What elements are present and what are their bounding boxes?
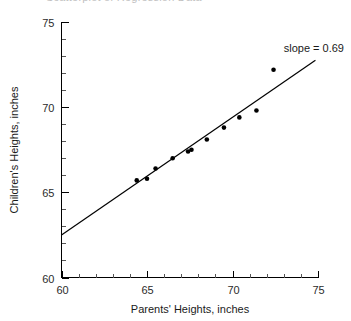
data-point [145, 176, 150, 181]
x-axis-major-ticks [63, 271, 319, 278]
y-axis-minor-ticks [62, 40, 66, 261]
chart-canvas: 60657075 60657075 Children's Heights, in… [0, 0, 351, 321]
data-point [237, 115, 242, 120]
slope-annotation: slope = 0.69 [284, 42, 344, 54]
data-point-group [134, 67, 275, 182]
data-point [222, 125, 227, 130]
y-tick-label: 65 [42, 187, 54, 199]
y-axis-title: Children's Heights, inches [8, 86, 20, 213]
y-tick-label: 60 [42, 273, 54, 285]
x-tick-label: 70 [227, 284, 239, 296]
x-axis-title: Parents' Heights, inches [131, 303, 250, 315]
x-axis-tick-labels: 60657075 [56, 284, 324, 296]
y-tick-label: 70 [42, 102, 54, 114]
data-point [134, 178, 139, 183]
data-point [153, 166, 158, 171]
y-tick-label: 75 [42, 17, 54, 29]
data-point [205, 137, 210, 142]
x-tick-label: 65 [141, 284, 153, 296]
data-point [170, 156, 175, 161]
data-point [189, 147, 194, 152]
y-axis-tick-labels: 60657075 [42, 17, 54, 285]
data-point [271, 67, 276, 72]
regression-line [62, 60, 316, 235]
data-point [254, 108, 259, 113]
y-axis-major-ticks [62, 23, 69, 279]
x-tick-label: 60 [56, 284, 68, 296]
x-tick-label: 75 [312, 284, 324, 296]
x-axis-minor-ticks [80, 274, 302, 278]
scatter-plot-figure: Scatterplot of Regression Data 60657075 … [0, 0, 351, 321]
